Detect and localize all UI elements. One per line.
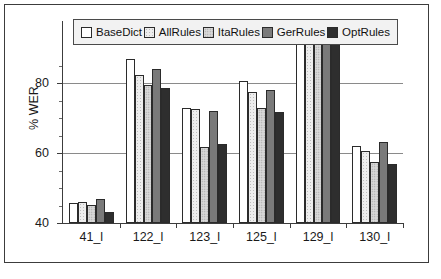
bar-122_l-ItaRules bbox=[144, 85, 153, 223]
legend-label: GerRules bbox=[277, 26, 326, 38]
legend: BaseDictAllRulesItaRulesGerRulesOptRules bbox=[73, 19, 398, 45]
x-tick-mark bbox=[403, 224, 404, 228]
y-tick-minor bbox=[59, 66, 62, 67]
legend-swatch-icon bbox=[203, 27, 214, 38]
x-tick-mark bbox=[346, 224, 347, 228]
legend-label: OptRules bbox=[342, 26, 390, 38]
legend-swatch-icon bbox=[81, 27, 92, 38]
bar-129_l-GerRules bbox=[322, 34, 331, 223]
y-tick-mark-80 bbox=[57, 83, 62, 84]
bar-125_l-GerRules bbox=[266, 90, 275, 223]
bar-123_l-GerRules bbox=[209, 111, 218, 223]
bar-130_l-GerRules bbox=[379, 142, 388, 223]
bar-125_l-AllRules bbox=[248, 92, 257, 223]
bar-129_l-OptRules bbox=[331, 40, 340, 223]
y-tick-minor bbox=[59, 118, 62, 119]
legend-swatch-icon bbox=[262, 27, 273, 38]
x-tick-label-129_l: 129_l bbox=[288, 231, 348, 244]
y-tick-minor bbox=[59, 188, 62, 189]
bar-122_l-AllRules bbox=[135, 75, 144, 223]
legend-label: ItaRules bbox=[218, 26, 260, 38]
x-tick-label-125_l: 125_l bbox=[231, 231, 291, 244]
bar-122_l-OptRules bbox=[161, 88, 170, 224]
figure-frame: % WER 80 60 40 41_l122_l123_l125_l129_l1… bbox=[4, 4, 429, 263]
bar-129_l-BaseDict bbox=[296, 29, 305, 223]
x-tick-mark bbox=[290, 224, 291, 228]
x-tick-label-122_l: 122_l bbox=[118, 231, 178, 244]
y-tick-minor bbox=[59, 101, 62, 102]
x-tick-mark bbox=[120, 224, 121, 228]
legend-entry-basedict: BaseDict bbox=[81, 26, 142, 38]
y-tick-minor bbox=[59, 171, 62, 172]
y-tick-label-40: 40 bbox=[19, 217, 49, 230]
bar-130_l-AllRules bbox=[361, 151, 370, 223]
bar-41_l-GerRules bbox=[96, 199, 105, 223]
bar-123_l-ItaRules bbox=[200, 147, 209, 223]
bar-130_l-BaseDict bbox=[352, 146, 361, 223]
x-tick-label-123_l: 123_l bbox=[175, 231, 235, 244]
bar-41_l-ItaRules bbox=[87, 205, 96, 223]
y-tick-minor bbox=[59, 206, 62, 207]
legend-swatch-icon bbox=[144, 27, 155, 38]
x-tick-mark bbox=[233, 224, 234, 228]
legend-entry-gerrules: GerRules bbox=[262, 26, 326, 38]
bar-129_l-ItaRules bbox=[314, 40, 323, 223]
bar-41_l-OptRules bbox=[105, 212, 114, 223]
x-tick-label-41_l: 41_l bbox=[61, 231, 121, 244]
legend-swatch-icon bbox=[327, 27, 338, 38]
bar-125_l-ItaRules bbox=[257, 108, 266, 223]
y-tick-minor bbox=[59, 136, 62, 137]
bar-122_l-BaseDict bbox=[126, 59, 135, 223]
legend-entry-optrules: OptRules bbox=[327, 26, 390, 38]
legend-entry-allrules: AllRules bbox=[144, 26, 201, 38]
bar-123_l-AllRules bbox=[191, 109, 200, 223]
bar-125_l-OptRules bbox=[275, 112, 284, 223]
bar-130_l-ItaRules bbox=[370, 162, 379, 223]
bar-123_l-OptRules bbox=[218, 144, 227, 223]
bars-layer bbox=[63, 21, 403, 223]
bar-125_l-BaseDict bbox=[239, 81, 248, 223]
y-tick-label-80: 80 bbox=[19, 77, 49, 90]
x-tick-mark bbox=[176, 224, 177, 228]
legend-label: AllRules bbox=[159, 26, 201, 38]
bar-129_l-AllRules bbox=[305, 30, 314, 223]
bar-41_l-AllRules bbox=[78, 202, 87, 223]
plot-area bbox=[63, 21, 403, 223]
bar-41_l-BaseDict bbox=[69, 203, 78, 223]
legend-entry-itarules: ItaRules bbox=[203, 26, 260, 38]
legend-label: BaseDict bbox=[96, 26, 142, 38]
bar-130_l-OptRules bbox=[388, 164, 397, 223]
y-tick-label-60: 60 bbox=[19, 147, 49, 160]
y-tick-mark-40 bbox=[57, 223, 62, 224]
bar-122_l-GerRules bbox=[152, 69, 161, 223]
bar-123_l-BaseDict bbox=[182, 108, 191, 223]
x-tick-label-130_l: 130_l bbox=[345, 231, 405, 244]
y-tick-mark-60 bbox=[57, 153, 62, 154]
